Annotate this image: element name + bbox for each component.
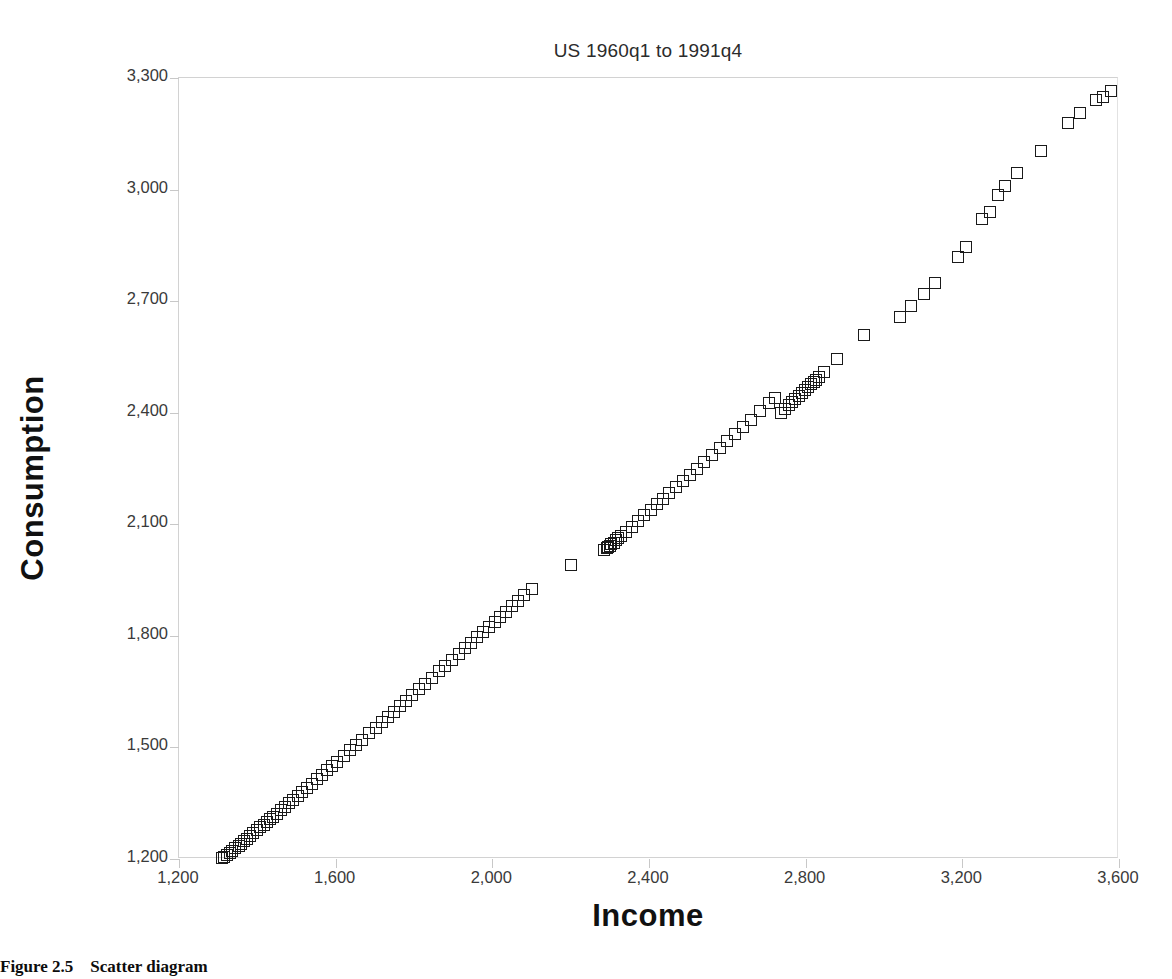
scatter-point (494, 611, 506, 623)
x-axis-title: Income (178, 898, 1118, 934)
y-axis-tick-mark (170, 78, 179, 79)
scatter-point (226, 845, 238, 857)
scatter-point (677, 475, 689, 487)
scatter-point (894, 311, 906, 323)
scatter-point (1062, 117, 1074, 129)
scatter-point (512, 595, 524, 607)
scatter-point (224, 847, 236, 859)
x-axis-tick-mark (179, 859, 180, 868)
scatter-point (976, 213, 988, 225)
scatter-point (565, 559, 577, 571)
scatter-point (483, 621, 495, 633)
scatter-point (241, 833, 253, 845)
scatter-point (612, 532, 624, 544)
y-axis-title: Consumption (15, 328, 51, 628)
scatter-point (858, 329, 870, 341)
scatter-point (626, 521, 638, 533)
scatter-point (344, 744, 356, 756)
scatter-point (233, 840, 245, 852)
scatter-point (818, 366, 830, 378)
scatter-point (805, 378, 817, 390)
scatter-point (306, 778, 318, 790)
scatter-point (608, 537, 620, 549)
scatter-point (779, 403, 791, 415)
scatter-point (598, 544, 610, 556)
scatter-point (459, 642, 471, 654)
figure-caption-text: Scatter diagram (90, 957, 207, 976)
scatter-point (244, 830, 256, 842)
scatter-point (808, 376, 820, 388)
scatter-point (338, 750, 350, 762)
scatter-point (670, 481, 682, 493)
chart-title: US 1960q1 to 1991q4 (178, 40, 1118, 62)
y-axis-tick-mark (170, 190, 179, 191)
y-axis-tick-mark (170, 636, 179, 637)
x-axis-tick-label: 3,200 (916, 868, 1006, 887)
scatter-point (350, 739, 362, 751)
y-axis-tick-mark (170, 301, 179, 302)
x-axis-tick-mark (336, 859, 337, 868)
scatter-point (992, 189, 1004, 201)
scatter-point (287, 794, 299, 806)
scatter-point (400, 695, 412, 707)
scatter-point (810, 374, 822, 386)
scatter-point (1074, 107, 1086, 119)
x-axis-tick-mark (649, 859, 650, 868)
scatter-point (258, 819, 270, 831)
scatter-point (605, 538, 617, 550)
scatter-point (1105, 85, 1117, 97)
scatter-point (645, 504, 657, 516)
scatter-point (663, 487, 675, 499)
figure-caption: Figure 2.5 Scatter diagram (0, 957, 1160, 977)
scatter-point (419, 678, 431, 690)
x-axis-tick-label: 1,200 (133, 868, 223, 887)
scatter-point (465, 637, 477, 649)
y-axis-tick-label: 2,700 (96, 289, 168, 308)
figure-caption-number: Figure 2.5 (0, 957, 73, 976)
scatter-point (698, 456, 710, 468)
x-axis-tick-mark (806, 859, 807, 868)
scatter-point (394, 700, 406, 712)
scatter-points-layer (179, 78, 1119, 859)
scatter-point (984, 206, 996, 218)
x-axis-tick-mark (962, 859, 963, 868)
x-axis-tick-mark (492, 859, 493, 868)
scatter-point (918, 288, 930, 300)
scatter-point (721, 435, 733, 447)
scatter-point (388, 706, 400, 718)
scatter-point (264, 813, 276, 825)
scatter-point (831, 353, 843, 365)
scatter-point (905, 300, 917, 312)
scatter-point (786, 396, 798, 408)
scatter-point (316, 769, 328, 781)
x-axis-tick-label: 2,800 (760, 868, 850, 887)
scatter-point (275, 804, 287, 816)
scatter-point (406, 689, 418, 701)
scatter-point (426, 672, 438, 684)
x-axis-tick-label: 1,600 (290, 868, 380, 887)
scatter-point (261, 816, 273, 828)
scatter-point (267, 811, 279, 823)
scatter-point (775, 407, 787, 419)
scatter-point (632, 515, 644, 527)
scatter-point (601, 542, 613, 554)
scatter-point (754, 405, 766, 417)
scatter-point (321, 764, 333, 776)
scatter-point (279, 801, 291, 813)
scatter-point (518, 589, 530, 601)
y-axis-tick-label: 2,100 (96, 512, 168, 531)
y-axis-tick-mark (170, 524, 179, 525)
scatter-point (729, 428, 741, 440)
scatter-point (714, 442, 726, 454)
scatter-point (706, 449, 718, 461)
scatter-point (783, 399, 795, 411)
scatter-point (292, 790, 304, 802)
scatter-point (1090, 94, 1102, 106)
scatter-point (229, 842, 241, 854)
y-axis-tick-label: 1,500 (96, 735, 168, 754)
scatter-point (793, 390, 805, 402)
x-axis-tick-label: 2,400 (603, 868, 693, 887)
y-axis-tick-label: 1,200 (96, 847, 168, 866)
scatter-point (796, 387, 808, 399)
figure-root: US 1960q1 to 1991q4 Consumption Income 1… (0, 0, 1172, 979)
